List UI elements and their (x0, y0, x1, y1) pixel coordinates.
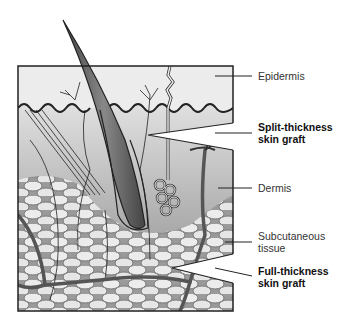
label-dermis: Dermis (258, 182, 291, 194)
label-split-thickness-skin-graft: Split-thickness skin graft (258, 121, 333, 145)
label-subcutaneous-tissue: Subcutaneous tissue (258, 230, 325, 254)
label-full-thickness-skin-graft: Full-thickness skin graft (258, 265, 329, 289)
label-epidermis: Epidermis (258, 70, 305, 82)
